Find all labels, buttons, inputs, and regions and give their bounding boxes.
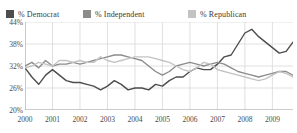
x-axis-tick-label: 2001 [45, 115, 60, 124]
x-axis-tick-label: 2003 [100, 115, 115, 124]
x-axis-tick-label: 2009 [265, 115, 280, 124]
y-axis-tick-label: 26% [9, 84, 23, 93]
series-canvas [25, 22, 293, 110]
party-affiliation-line-chart: % Democrat % Independent % Republican 20… [0, 0, 297, 133]
y-axis-tick-label: 20% [9, 106, 23, 115]
y-axis-tick-label: 38% [9, 40, 23, 49]
legend-swatch-republican [188, 10, 196, 18]
x-axis: 2000200120022003200420052006200720082009 [25, 113, 297, 129]
y-axis-tick-label: 44% [9, 18, 23, 27]
x-axis-tick-label: 2008 [237, 115, 252, 124]
series-line-republican [25, 57, 293, 81]
x-axis-tick-label: 2006 [182, 115, 197, 124]
legend-label-democrat: % Democrat [18, 10, 59, 19]
chart-legend: % Democrat % Independent % Republican [0, 0, 297, 20]
x-axis-tick-label: 2005 [155, 115, 170, 124]
plot-wrapper: 20%26%32%38%44% 200020012002200320042005… [0, 20, 297, 133]
legend-swatch-independent [83, 10, 91, 18]
x-axis-tick-label: 2000 [18, 115, 33, 124]
legend-label-republican: % Republican [200, 10, 246, 19]
x-axis-tick-label: 2002 [72, 115, 87, 124]
y-axis: 20%26%32%38%44% [0, 20, 25, 112]
plot-area [25, 22, 293, 110]
y-axis-tick-label: 32% [9, 62, 23, 71]
x-axis-tick-label: 2004 [127, 115, 142, 124]
legend-item-republican[interactable]: % Republican [188, 4, 246, 15]
legend-label-independent: % Independent [95, 10, 145, 19]
legend-item-democrat[interactable]: % Democrat [6, 4, 59, 15]
legend-item-independent[interactable]: % Independent [83, 4, 145, 15]
x-axis-tick-label: 2007 [210, 115, 225, 124]
